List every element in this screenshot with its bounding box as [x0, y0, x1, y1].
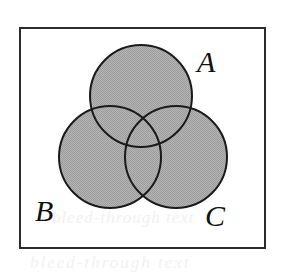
set-label-a: A: [197, 47, 215, 77]
set-label-b: B: [35, 196, 53, 226]
set-label-c: C: [205, 201, 225, 231]
venn-diagram-figure: bleed-through text bleed-through text A …: [0, 0, 283, 272]
venn-diagram-canvas: [0, 0, 283, 272]
